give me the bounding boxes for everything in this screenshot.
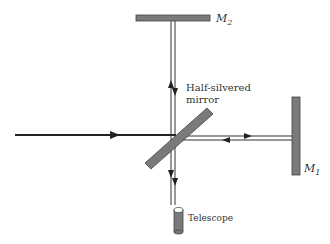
incoming-beam xyxy=(15,131,176,139)
mirror-m2 xyxy=(136,15,210,21)
telescope-label: Telescope xyxy=(188,213,233,223)
mirror-m2-label: M2 xyxy=(215,12,232,27)
half-silvered-mirror xyxy=(145,108,213,169)
half-silvered-mirror-label-line2: mirror xyxy=(186,94,219,105)
michelson-interferometer-diagram: M2 M1 Half-silvered mirror Telescope xyxy=(0,0,330,244)
vertical-beams xyxy=(168,21,178,205)
arrow-down-icon xyxy=(168,170,174,178)
arrow-right-icon xyxy=(244,133,252,139)
arrow-up-icon xyxy=(168,80,174,88)
arrow-left-icon xyxy=(222,137,230,143)
mirror-m1-label: M1 xyxy=(303,162,320,177)
half-silvered-mirror-label-line1: Half-silvered xyxy=(186,82,251,93)
arrow-down-icon xyxy=(172,88,178,96)
telescope-icon xyxy=(174,208,183,235)
horizontal-beams xyxy=(176,133,292,143)
arrow-down-icon xyxy=(172,178,178,186)
mirror-m1 xyxy=(292,97,300,175)
